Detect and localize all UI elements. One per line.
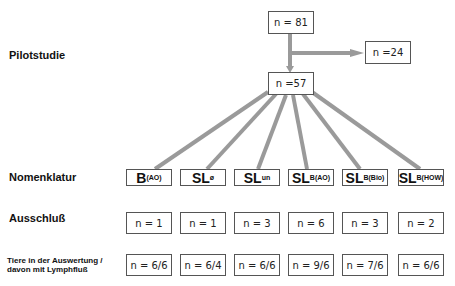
label-pilotstudie: Pilotstudie xyxy=(9,49,65,61)
group-box-1: B(AO) xyxy=(126,169,172,186)
label-tiere-line2: davon mit Lymphfluß xyxy=(7,265,103,274)
group-main: B xyxy=(136,170,146,186)
group-sub: un xyxy=(262,174,271,181)
group-sub: B(HOW) xyxy=(417,174,444,181)
group-main: SL xyxy=(244,170,262,186)
tiere-3: n = 6/6 xyxy=(234,254,280,276)
box-total: n = 81 xyxy=(268,11,314,34)
group-box-3: SLun xyxy=(234,169,280,186)
group-sub: ø xyxy=(210,174,214,181)
label-ausschluss: Ausschluß xyxy=(9,212,65,224)
ausschluss-3: n = 3 xyxy=(234,212,280,234)
group-main: SL xyxy=(346,170,364,186)
group-box-4: SLB(AO) xyxy=(288,169,334,186)
tiere-5: n = 7/6 xyxy=(342,254,388,276)
tiere-1: n = 6/6 xyxy=(126,254,172,276)
group-box-2: SLø xyxy=(180,169,226,186)
label-tiere-line1: Tiere in der Auswertung / xyxy=(7,256,103,265)
group-box-6: SLB(HOW) xyxy=(398,169,444,186)
ausschluss-2: n = 1 xyxy=(180,212,226,234)
label-nomenklatur: Nomenklatur xyxy=(9,171,76,183)
ausschluss-4: n = 6 xyxy=(288,212,334,234)
tiere-2: n = 6/4 xyxy=(180,254,226,276)
group-sub: (AO) xyxy=(146,174,161,181)
tiere-6: n = 6/6 xyxy=(398,254,444,276)
group-main: SL xyxy=(192,170,210,186)
ausschluss-5: n = 3 xyxy=(342,212,388,234)
group-main: SL xyxy=(399,170,417,186)
ausschluss-1: n = 1 xyxy=(126,212,172,234)
group-sub: B(AO) xyxy=(310,174,330,181)
box-remaining: n =57 xyxy=(268,72,314,95)
ausschluss-6: n = 2 xyxy=(398,212,444,234)
label-tiere: Tiere in der Auswertung / davon mit Lymp… xyxy=(7,256,103,274)
box-excluded: n =24 xyxy=(365,41,411,64)
group-sub: B(Bio) xyxy=(363,174,384,181)
group-main: SL xyxy=(292,170,310,186)
tiere-4: n = 9/6 xyxy=(288,254,334,276)
group-box-5: SLB(Bio) xyxy=(342,169,388,186)
